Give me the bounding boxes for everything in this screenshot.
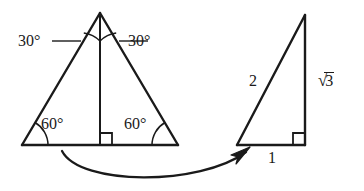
radicand-group: 3	[325, 72, 333, 89]
right-triangle-hypotenuse	[237, 15, 305, 145]
side-label-hypotenuse-2: 2	[249, 73, 257, 89]
side-label-base-leg-1: 1	[268, 150, 276, 166]
angle-label-60-left: 60°	[41, 116, 63, 132]
figure-canvas	[0, 0, 364, 191]
right-triangle	[237, 15, 305, 145]
arrow-shaft	[62, 151, 246, 177]
curved-transform-arrow	[62, 147, 250, 177]
radicand-value: 3	[325, 72, 333, 89]
side-label-vertical-leg-sqrt3: √3	[317, 72, 333, 89]
right-angle-marker-altitude	[100, 133, 112, 145]
angle-label-60-right: 60°	[124, 116, 146, 132]
radical-sign-group: √3	[317, 72, 333, 89]
angle-arc-60-right	[152, 123, 165, 146]
right-angle-marker-right-triangle	[293, 133, 305, 145]
angle-label-30-right: 30°	[128, 33, 150, 49]
radical-overbar	[324, 72, 334, 73]
arrow-head	[231, 147, 250, 164]
geometry-figure: 30° 30° 60° 60° 2 √3 1	[0, 0, 364, 191]
angle-label-30-left: 30°	[18, 33, 40, 49]
